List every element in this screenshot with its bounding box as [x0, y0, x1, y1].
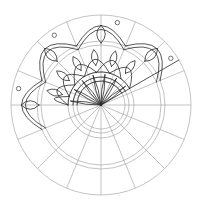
mandala-drawing	[0, 0, 201, 206]
guide-spoke	[101, 105, 184, 139]
middle-leaf	[47, 89, 63, 96]
guide-spoke	[101, 71, 184, 105]
middle-leaf	[110, 51, 117, 67]
guide-spoke	[101, 22, 135, 105]
mandala-canvas: Mandala line drawing (partially inked)	[0, 0, 201, 206]
boundary-line	[101, 60, 179, 105]
guide-spoke	[18, 105, 101, 139]
middle-leaf	[91, 50, 98, 66]
middle-leaf	[73, 57, 82, 71]
decor-dot	[16, 86, 20, 90]
decor-dot	[115, 20, 119, 24]
guide-spoke	[67, 105, 101, 188]
guide-spoke	[101, 105, 135, 188]
guide-spoke	[18, 71, 101, 105]
decor-dot	[52, 33, 56, 37]
guide-spoke	[67, 22, 101, 105]
decor-dot	[169, 56, 173, 60]
